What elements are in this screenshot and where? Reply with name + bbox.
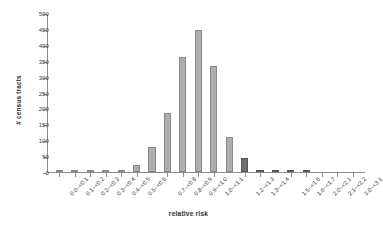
- y-axis-tick-label: 150: [15, 122, 49, 128]
- plot-area: 500450400350300250200150100500: [47, 14, 365, 173]
- y-axis-tick-label: 250: [15, 91, 49, 97]
- y-axis-tick-label: 200: [15, 106, 49, 112]
- y-axis-tick-label: 450: [15, 27, 49, 33]
- bars-layer: [47, 14, 365, 172]
- bar: [210, 66, 217, 172]
- y-axis-tick-label: 0: [15, 170, 49, 176]
- bar: [287, 170, 294, 172]
- x-axis-title: relative risk: [0, 210, 377, 217]
- bar: [272, 170, 279, 172]
- bar: [241, 158, 248, 172]
- x-axis-tick-labels: 0.0–<0.10.1–<0.20.2–<0.30.3–<0.40.4–<0.5…: [47, 176, 365, 210]
- bar: [179, 57, 186, 172]
- y-axis-title-label: # census tracts: [15, 75, 22, 125]
- y-axis-tick-label: 100: [15, 138, 49, 144]
- x-axis-line: [47, 172, 365, 173]
- bar: [71, 170, 78, 172]
- y-axis-title: # census tracts: [12, 30, 24, 170]
- bar: [226, 137, 233, 172]
- bar: [148, 147, 155, 172]
- bar: [195, 30, 202, 172]
- y-axis-tick-label: 500: [15, 11, 49, 17]
- y-axis-tick-label: 50: [15, 154, 49, 160]
- y-axis-tick-label: 400: [15, 43, 49, 49]
- y-axis-tick-label: 350: [15, 59, 49, 65]
- bar: [87, 170, 94, 172]
- bar: [164, 113, 171, 172]
- bar: [256, 170, 263, 172]
- bar: [102, 170, 109, 172]
- bar: [56, 170, 63, 172]
- bar: [118, 170, 125, 172]
- bar: [303, 170, 310, 172]
- y-axis-tick-label: 300: [15, 75, 49, 81]
- bar: [133, 165, 140, 172]
